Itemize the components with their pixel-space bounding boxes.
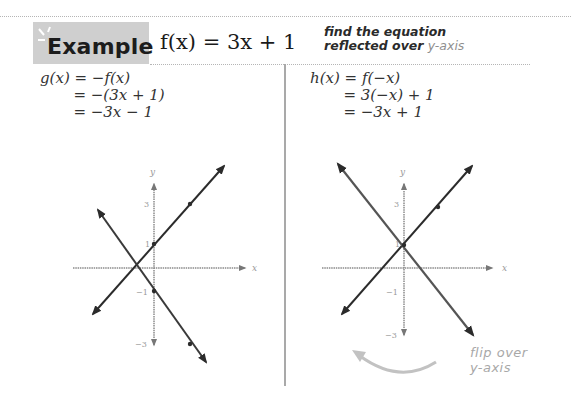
f-line [342, 166, 472, 314]
f-line [93, 166, 224, 314]
y-axis-label: y [399, 167, 406, 177]
left-graph: y x 3 1 −1 −3 [73, 166, 257, 362]
flip-arrow-icon [360, 356, 436, 372]
point [188, 342, 192, 346]
y-axis-label: y [149, 167, 156, 177]
x-axis-label: x [252, 263, 257, 273]
tick-label: −1 [136, 288, 148, 297]
point [152, 242, 156, 246]
tick-label: −1 [386, 288, 398, 297]
graphs: y x 3 1 −1 −3 y x 3 1 −1 −3 [0, 0, 571, 394]
tick-label: −3 [135, 340, 147, 349]
g-line [98, 210, 206, 362]
flip-note-line-1: flip over [470, 345, 528, 360]
tick-label: 1 [395, 240, 400, 249]
flip-note-line-2: y-axis [470, 360, 528, 375]
tick-label: 3 [394, 200, 399, 209]
point [188, 202, 192, 206]
flip-note: flip over y-axis [470, 345, 528, 375]
tick-label: 3 [144, 200, 149, 209]
point [436, 205, 440, 209]
tick-label: 1 [145, 240, 150, 249]
point [152, 289, 156, 293]
right-graph: y x 3 1 −1 −3 [322, 164, 507, 372]
h-line [338, 164, 473, 335]
tick-label: −3 [385, 331, 397, 340]
point [402, 243, 406, 247]
x-axis-label: x [502, 263, 507, 273]
